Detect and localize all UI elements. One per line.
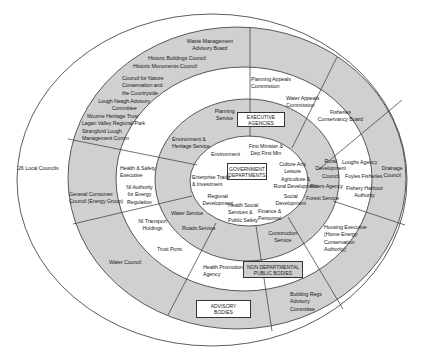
ndpb-health-safety-exec: Health & Safety Executive <box>120 164 156 179</box>
advisory-council-nature: Council for Nature Conservation and the … <box>122 74 163 96</box>
advisory-lagan-valley: Lagan Valley Regional Park <box>82 119 145 126</box>
dept-environment: Environment <box>211 150 240 157</box>
advisory-historic-monuments: Historic Monuments Council <box>133 62 197 69</box>
dept-social-development: Social Development <box>275 192 305 207</box>
dept-culture-arts-leisure: Culture Arts Leisure <box>279 160 306 175</box>
agency-rivers: Rivers Agency <box>310 182 343 189</box>
ndpb-water-appeals: Water Appeals Commission <box>286 94 319 109</box>
ndpb-trust-ports: Trust Ports <box>157 245 182 252</box>
agency-roads-service: Roads Service <box>182 224 215 231</box>
dept-enterprise-trade: Enterprise Trade & Investment <box>192 173 230 188</box>
local-councils-label: 26 Local Councils <box>18 164 59 171</box>
advisory-historic-buildings: Historic Buildings Council <box>148 54 206 61</box>
agency-forest-service: Forest Service <box>306 194 339 201</box>
advisory-general-consumer: General Consumer Council (Energy Group) <box>69 190 123 205</box>
dept-first-minister: First Minister & Dep First Min <box>249 142 283 157</box>
ndpb-health-promotion: Health Promotion Agency <box>203 263 243 278</box>
ndpb-foyles-fisheries: Foyles Fisheries <box>345 172 382 179</box>
advisory-building-regs: Building Regs Advisory Committee <box>290 290 322 312</box>
agency-planning-service: Planning Service <box>215 107 235 122</box>
ndpb-loughs-agency: Loughs Agency <box>342 158 377 165</box>
dept-finance-personnel: Finance & Personnel <box>258 207 281 222</box>
ndpb-box: NON DEPARTMENTAL PUBLIC BODIES <box>243 261 303 278</box>
advisory-waste-management: Waste Management Advisory Board <box>187 37 233 52</box>
ndpb-fishery-harbour: Fishery Harbour Authority <box>346 184 383 199</box>
ndpb-ni-transport: NI Transport Holdings <box>138 217 166 232</box>
government-departments-box: GOVERNMENT DEPARTMENTS <box>227 163 267 180</box>
advisory-strangford-lough: Strangford Lough Management Comm <box>82 127 129 142</box>
dept-regional-development: Regional Development <box>202 192 232 207</box>
advisory-bodies-box: ADVISORY BODIES <box>196 300 251 318</box>
ndpb-fisheries-conservancy: Fisheries Conservancy Board <box>318 108 363 123</box>
agency-water-service: Water Service <box>171 209 203 216</box>
agency-environment-heritage: Environment & Heritage Service <box>172 135 210 150</box>
ndpb-housing-executive: Housing Executive (Home Energy Conservat… <box>324 223 367 253</box>
ndpb-planning-appeals: Planning Appeals Commission <box>251 75 291 90</box>
advisory-lough-neagh: Lough Neagh Advisory Committee <box>98 97 150 112</box>
advisory-drainage-council: Drainage Council <box>382 164 403 179</box>
advisory-water-council: Water Council <box>109 258 141 265</box>
executive-agencies-box: EXECUTIVE AGENCIES <box>237 112 285 127</box>
ndpb-ni-authority-energy: NI Authority for Energy Regulation <box>126 183 152 205</box>
agency-construction-service: Construction Service <box>268 229 297 244</box>
